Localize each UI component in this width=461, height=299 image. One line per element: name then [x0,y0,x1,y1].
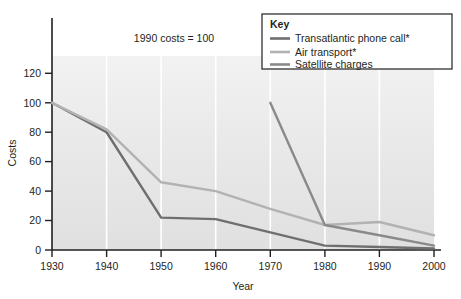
x-tick-label: 1940 [95,260,119,272]
y-tick-label: 120 [23,67,41,79]
y-tick-label: 80 [29,126,41,138]
y-tick-label: 40 [29,185,41,197]
x-axis-tick-labels: 1930 1940 1950 1960 1970 1980 1990 2000 [40,260,446,272]
chart-annotation: 1990 costs = 100 [134,32,214,44]
x-tick-label: 1970 [259,260,283,272]
legend: Key Transatlantic phone call* Air transp… [262,14,452,70]
y-tick-label: 0 [35,244,41,256]
plot-area-background [52,56,434,250]
x-tick-label: 1930 [40,260,64,272]
y-axis-ticks [45,73,52,250]
x-tick-label: 1960 [204,260,228,272]
x-tick-label: 2000 [422,260,446,272]
legend-title: Key [270,18,289,30]
y-tick-label: 60 [29,155,41,167]
x-tick-label: 1950 [149,260,173,272]
y-axis-tick-labels: 120 100 80 60 40 20 0 [23,67,41,256]
x-tick-label: 1980 [313,260,337,272]
x-tick-label: 1990 [368,260,392,272]
line-chart: 120 100 80 60 40 20 0 Costs 1930 1940 19… [0,0,461,299]
chart-container: 120 100 80 60 40 20 0 Costs 1930 1940 19… [0,0,461,299]
legend-item-label: Satellite charges [295,58,373,70]
y-tick-label: 100 [23,97,41,109]
x-axis-title: Year [232,280,254,292]
legend-item-label: Air transport* [295,46,356,58]
legend-item-label: Transatlantic phone call* [295,32,410,44]
x-axis-ticks [52,250,434,257]
y-axis-title: Costs [6,140,18,167]
y-tick-label: 20 [29,214,41,226]
